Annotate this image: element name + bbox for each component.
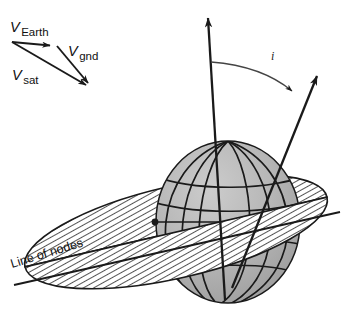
figure-root: i Line of nodes VEarth Vgnd Vsat — [0, 0, 352, 321]
v-gnd-symbol: V — [68, 43, 79, 59]
ascending-node-point — [152, 219, 159, 226]
inclination-angle-label: i — [271, 49, 274, 63]
v-sat-symbol: V — [12, 67, 23, 83]
v-gnd-subscript: gnd — [79, 50, 98, 62]
v-earth-symbol: V — [10, 19, 21, 35]
v-earth-subscript: Earth — [21, 26, 49, 38]
orbital-inclination-diagram: i Line of nodes VEarth Vgnd Vsat — [0, 0, 352, 321]
v-sat-subscript: sat — [23, 74, 39, 86]
